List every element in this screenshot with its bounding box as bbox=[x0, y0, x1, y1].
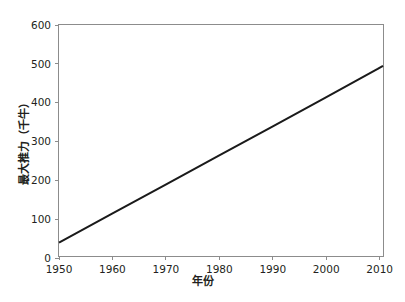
x-axis-tick-label: 2000 bbox=[313, 264, 340, 275]
x-axis-tick-label: 1960 bbox=[99, 264, 126, 275]
y-axis-tick-label: 0 bbox=[44, 253, 51, 264]
x-axis-tick-label: 1970 bbox=[153, 264, 180, 275]
x-axis-tick-mark bbox=[379, 256, 380, 260]
line-series-svg bbox=[59, 25, 383, 256]
x-axis-label: 年份 bbox=[0, 276, 405, 287]
x-axis-tick-label: 2010 bbox=[366, 264, 393, 275]
chart-figure: 最大推力（千牛） 0100200300400500600 19501960197… bbox=[0, 0, 405, 302]
x-axis-tick-mark bbox=[326, 256, 327, 260]
y-axis-label-container: 最大推力（千牛） bbox=[14, 0, 34, 281]
y-axis-label: 最大推力（千牛） bbox=[19, 97, 30, 185]
x-axis-tick-mark bbox=[165, 256, 166, 260]
x-axis-tick-mark bbox=[219, 256, 220, 260]
plot-area: 0100200300400500600 19501960197019801990… bbox=[58, 24, 384, 257]
y-axis-tick-mark bbox=[55, 258, 59, 259]
x-axis-tick-label: 1950 bbox=[46, 264, 73, 275]
x-axis-tick-mark bbox=[112, 256, 113, 260]
x-axis-tick-mark bbox=[272, 256, 273, 260]
x-axis-tick-label: 1990 bbox=[259, 264, 286, 275]
x-axis-tick-label: 1980 bbox=[206, 264, 233, 275]
line-series-path bbox=[59, 66, 383, 243]
x-axis-tick-mark bbox=[59, 256, 60, 260]
